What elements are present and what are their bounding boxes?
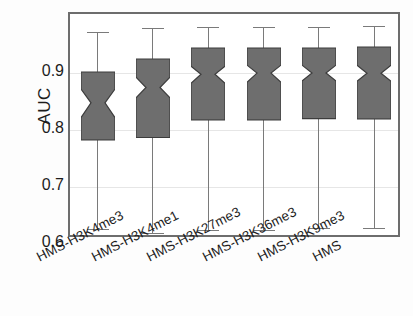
upper-whisker [263,27,264,48]
upper-whisker-cap [142,28,164,29]
box-body[interactable] [136,58,170,139]
box-body[interactable] [302,47,336,120]
upper-whisker [97,32,98,72]
box-plot-group[interactable] [347,14,398,235]
upper-whisker-cap [363,26,385,27]
upper-whisker-cap [253,27,275,28]
box-plot-group[interactable] [181,14,236,235]
lower-whisker [97,140,98,229]
lower-whisker-cap [363,228,385,229]
lower-whisker [263,120,264,230]
upper-whisker [374,26,375,47]
plot-area [68,12,400,237]
box-body[interactable] [191,47,225,121]
box-body[interactable] [81,71,115,141]
box-body[interactable] [357,46,391,120]
upper-whisker-cap [308,27,330,28]
upper-whisker-cap [87,32,109,33]
box-plot-group[interactable] [125,14,180,235]
y-tick-label-0.7: 0.7 [18,176,64,194]
upper-whisker [208,27,209,48]
box-plot-group[interactable] [291,14,346,235]
box-plot-group[interactable] [236,14,291,235]
lower-whisker [318,119,319,228]
y-tick-label-0.9: 0.9 [18,62,64,80]
lower-whisker [208,120,209,230]
box-plot-group[interactable] [70,14,125,235]
lower-whisker [374,119,375,228]
upper-whisker-cap [197,27,219,28]
y-tick-label-0.8: 0.8 [18,119,64,137]
upper-whisker [152,28,153,59]
upper-whisker [318,27,319,48]
box-plot-figure: AUC 0.60.70.80.9 HMS-H3K4me3HMS-H3K4me1H… [0,0,413,316]
box-body[interactable] [247,47,281,121]
